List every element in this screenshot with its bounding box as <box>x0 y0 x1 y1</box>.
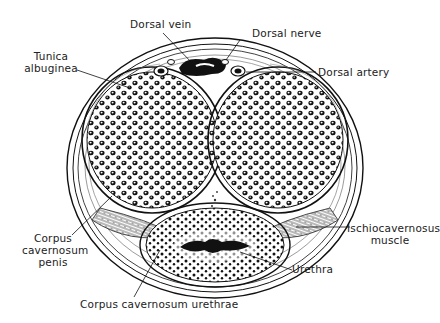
label-dorsal-vein: Dorsal vein <box>130 18 191 30</box>
label-corpus-cavernosum-urethrae: Corpus cavernosum urethrae <box>80 298 238 310</box>
corpus-cavernosum-penis-right <box>208 67 348 213</box>
label-urethra: Urethra <box>292 263 333 275</box>
dorsal-artery-left <box>154 66 168 76</box>
label-corpus-cavernosum-penis: Corpus cavernosum penis <box>22 232 84 268</box>
dorsal-nerve-left <box>168 60 175 65</box>
dorsal-artery-right <box>231 66 245 76</box>
dorsal-vein <box>179 58 226 76</box>
label-line: Corpus <box>22 232 84 244</box>
label-line: Tunica <box>22 50 80 62</box>
label-line: albuginea <box>22 62 80 74</box>
label-ischiocavernosus-muscle: Ischiocavernosus muscle <box>347 222 433 246</box>
label-line: cavernosum <box>22 244 84 256</box>
label-line: penis <box>22 256 84 268</box>
label-dorsal-artery: Dorsal artery <box>318 66 389 78</box>
dorsal-nerve-right <box>222 60 229 65</box>
label-line: Ischiocavernosus <box>347 222 433 234</box>
label-line: muscle <box>347 234 433 246</box>
label-dorsal-nerve: Dorsal nerve <box>252 27 322 39</box>
corpus-cavernosum-penis-left <box>82 67 222 213</box>
label-tunica-albuginea: Tunica albuginea <box>22 50 80 74</box>
